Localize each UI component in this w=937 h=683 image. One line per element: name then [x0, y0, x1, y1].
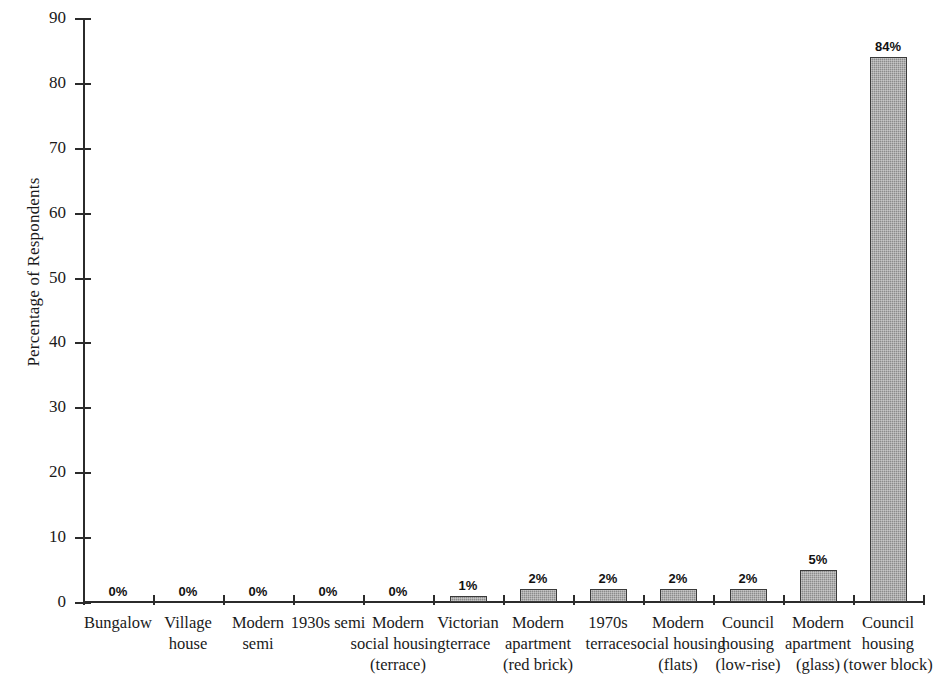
y-axis-tick — [75, 472, 91, 474]
bar-value-label: 0% — [368, 584, 428, 599]
x-axis-tick — [643, 595, 645, 605]
bar-value-label: 0% — [158, 584, 218, 599]
y-axis-tick-label: 0 — [22, 592, 66, 612]
x-axis-tick — [153, 595, 155, 605]
category-label-line: housing — [832, 633, 937, 654]
x-axis-tick — [783, 595, 785, 605]
bar-value-label: 5% — [788, 552, 848, 567]
x-axis-tick — [923, 595, 925, 605]
y-axis-tick — [75, 18, 91, 20]
bar — [660, 589, 697, 602]
y-axis-tick — [75, 83, 91, 85]
bar — [730, 589, 767, 602]
x-axis-tick — [363, 595, 365, 605]
x-axis-tick — [573, 595, 575, 605]
y-axis-tick — [75, 537, 91, 539]
bar-value-label: 0% — [88, 584, 148, 599]
bar — [800, 570, 837, 602]
x-axis-tick — [83, 595, 85, 605]
y-axis-tick-label: 90 — [22, 8, 66, 28]
y-axis-tick — [75, 213, 91, 215]
x-axis-tick — [223, 595, 225, 605]
bar-value-label: 2% — [508, 571, 568, 586]
x-axis-tick — [433, 595, 435, 605]
bar-value-label: 2% — [578, 571, 638, 586]
x-axis-tick — [293, 595, 295, 605]
y-axis-tick — [75, 342, 91, 344]
x-axis-category-label: Councilhousing(tower block) — [832, 612, 937, 675]
category-label-line: Council — [832, 612, 937, 633]
y-axis-tick-label: 80 — [22, 73, 66, 93]
bar-value-label: 2% — [648, 571, 708, 586]
bar — [590, 589, 627, 602]
x-axis-tick — [713, 595, 715, 605]
y-axis-tick-label: 30 — [22, 397, 66, 417]
bar-value-label: 2% — [718, 571, 778, 586]
category-label-line: (terrace) — [342, 654, 454, 675]
bar-value-label: 0% — [228, 584, 288, 599]
y-axis-tick-label: 10 — [22, 527, 66, 547]
y-axis-tick — [75, 148, 91, 150]
y-axis-tick-label: 60 — [22, 203, 66, 223]
y-axis-tick-label: 20 — [22, 462, 66, 482]
category-label-line: semi — [202, 633, 314, 654]
category-label-line: (tower block) — [832, 654, 937, 675]
y-axis-tick-label: 50 — [22, 268, 66, 288]
bar — [450, 596, 487, 602]
bar-value-label: 1% — [438, 578, 498, 593]
y-axis-tick — [75, 407, 91, 409]
y-axis-tick-label: 40 — [22, 332, 66, 352]
x-axis-tick — [503, 595, 505, 605]
bar-value-label: 84% — [858, 39, 918, 54]
category-label-line: (red brick) — [482, 654, 594, 675]
bar — [870, 57, 907, 602]
y-axis-tick — [75, 278, 91, 280]
y-axis-line — [83, 18, 85, 603]
x-axis-tick — [853, 595, 855, 605]
y-axis-tick-label: 70 — [22, 138, 66, 158]
bar — [520, 589, 557, 602]
bar-value-label: 0% — [298, 584, 358, 599]
